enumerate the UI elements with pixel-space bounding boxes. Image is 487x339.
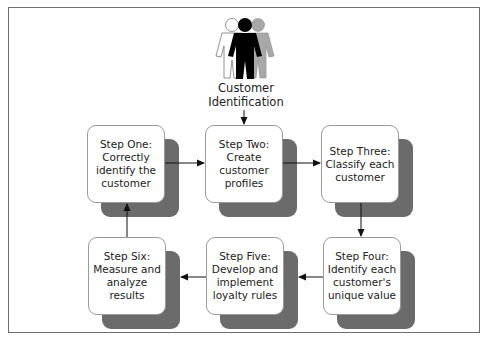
- step-box: Step Five: Develop and implement loyalty…: [206, 237, 284, 315]
- step-box: Step Three: Classify each customer: [321, 125, 399, 203]
- step-five: Step Five: Develop and implement loyalty…: [206, 237, 284, 315]
- step-box: Step One: Correctly identify the custome…: [87, 125, 165, 203]
- step-label: Step Six: Measure and analyze results: [91, 250, 163, 302]
- step-three: Step Three: Classify each customer: [321, 125, 399, 203]
- step-label: Step One: Correctly identify the custome…: [94, 138, 158, 190]
- step-two: Step Two: Create customer profiles: [205, 125, 283, 203]
- step-box: Step Two: Create customer profiles: [205, 125, 283, 203]
- start-label: Customer Identification: [196, 81, 296, 109]
- step-box: Step Six: Measure and analyze results: [88, 237, 166, 315]
- step-label: Step Four: Identify each customer's uniq…: [326, 250, 398, 302]
- step-six: Step Six: Measure and analyze results: [88, 237, 166, 315]
- step-label: Step Three: Classify each customer: [324, 145, 397, 184]
- step-label: Step Five: Develop and implement loyalty…: [210, 250, 280, 302]
- step-label: Step Two: Create customer profiles: [217, 138, 271, 190]
- step-four: Step Four: Identify each customer's uniq…: [323, 237, 401, 315]
- step-one: Step One: Correctly identify the custome…: [87, 125, 165, 203]
- start-label-line2: Identification: [196, 95, 296, 109]
- step-box: Step Four: Identify each customer's uniq…: [323, 237, 401, 315]
- start-label-line1: Customer: [196, 81, 296, 95]
- people-group-icon: [214, 18, 278, 82]
